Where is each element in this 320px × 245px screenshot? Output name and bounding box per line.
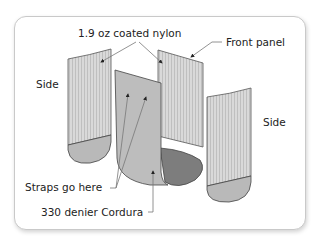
- label-front-panel: Front panel: [226, 36, 285, 48]
- label-cordura: 330 denier Cordura: [41, 206, 143, 218]
- label-straps: Straps go here: [25, 181, 102, 193]
- panel-diagram: 1.9 oz coated nylon Front panel Side Sid…: [0, 0, 320, 245]
- label-side-right: Side: [263, 116, 286, 128]
- cordura-bottom-panel: [160, 148, 203, 186]
- front-panel: [158, 50, 203, 147]
- label-nylon: 1.9 oz coated nylon: [78, 27, 181, 39]
- label-side-left: Side: [36, 78, 59, 90]
- left-side-panel: [68, 49, 111, 163]
- right-side-panel: [207, 88, 251, 202]
